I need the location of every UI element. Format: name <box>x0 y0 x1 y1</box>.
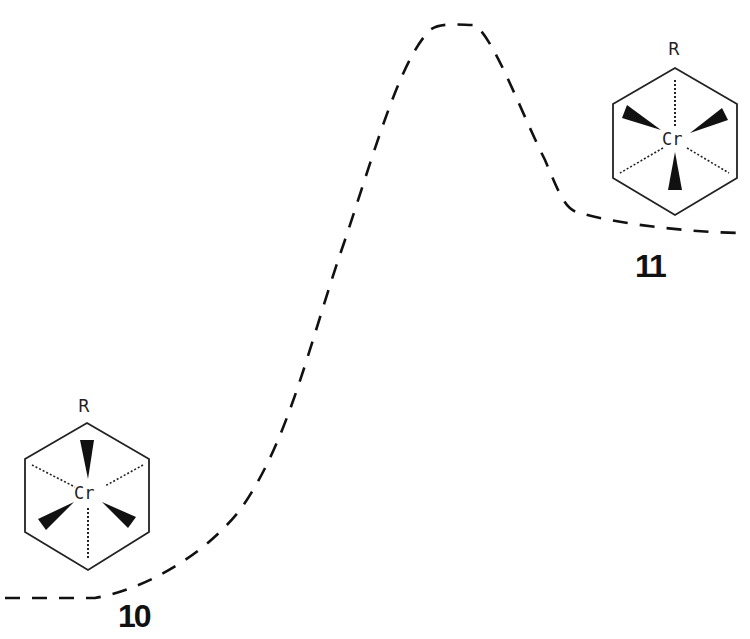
wedge-down-11 <box>668 152 682 190</box>
metal-cr-label-10: Cr <box>74 483 94 503</box>
wedge-up-10 <box>80 440 94 479</box>
substituent-r-label-11: R <box>668 39 680 59</box>
compound-number-11: 11 <box>635 248 666 284</box>
wedge-upper-left-11 <box>622 105 661 130</box>
energy-profile-diagram: R Cr 10 R Cr 11 <box>0 0 750 639</box>
substituent-r-label-10: R <box>78 396 90 416</box>
compound-11-structure: R Cr <box>613 39 737 215</box>
compound-number-10: 10 <box>118 598 151 634</box>
metal-cr-label-11: Cr <box>662 129 682 149</box>
compound-10-structure: R Cr <box>25 396 149 570</box>
wedge-right-10 <box>102 502 136 528</box>
wedge-upper-right-11 <box>690 108 728 133</box>
wedge-left-10 <box>38 502 74 530</box>
